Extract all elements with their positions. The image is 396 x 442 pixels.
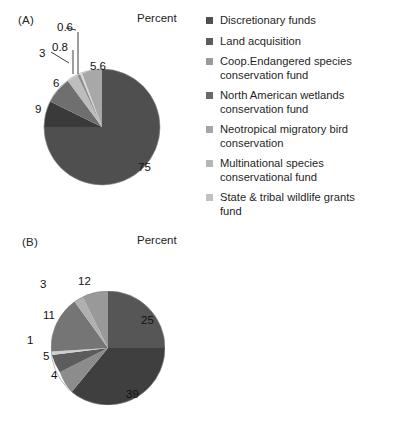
legend-a: Discretionary funds Land acquisition Coo… <box>206 14 392 225</box>
pie-a-label-3: 3 <box>39 48 45 60</box>
legend-a-label: Multinational species conservational fun… <box>220 157 324 184</box>
pie-a-label-0-8: 0.8 <box>52 42 68 54</box>
panel-b-percent-header: Percent <box>137 234 177 246</box>
legend-swatch-icon <box>206 58 213 65</box>
legend-a-item-land-acquisition[interactable]: Land acquisition <box>206 35 392 49</box>
legend-a-item-coop-endangered-species[interactable]: Coop.Endangered species conservation fun… <box>206 55 392 82</box>
legend-a-item-state-tribal-wildlife-grants[interactable]: State & tribal wildlife grants fund <box>206 191 392 218</box>
pie-a-label-0-6: 0.6 <box>57 22 73 34</box>
pie-b-label-3: 3 <box>40 279 46 291</box>
legend-swatch-icon <box>206 38 213 45</box>
panel-a: (A) Percent 0.6 0.8 <box>0 0 396 221</box>
pie-b-label-1: 1 <box>27 335 33 347</box>
pie-b-label-11: 11 <box>43 310 55 322</box>
panel-a-percent-header: Percent <box>137 12 177 24</box>
legend-a-item-north-american-wetlands[interactable]: North American wetlands conservation fun… <box>206 89 392 116</box>
legend-swatch-icon <box>206 17 213 24</box>
legend-a-label: Neotropical migratory bird conservation <box>220 123 348 150</box>
panel-b: (B) Percent 25 39 4 5 1 11 3 12 <box>0 221 396 442</box>
legend-a-item-neotropical-migratory-bird[interactable]: Neotropical migratory bird conservation <box>206 123 392 150</box>
legend-a-label: Coop.Endangered species conservation fun… <box>220 55 352 82</box>
legend-a-label: State & tribal wildlife grants fund <box>220 191 355 218</box>
pie-a-label-5-6: 5.6 <box>90 61 106 73</box>
pie-a-label-9: 9 <box>35 104 41 116</box>
pie-b-label-5: 5 <box>43 351 49 363</box>
panel-a-letter: (A) <box>18 14 34 26</box>
pie-b-label-4: 4 <box>51 370 57 382</box>
legend-swatch-icon <box>206 160 213 167</box>
legend-a-label: Land acquisition <box>220 35 301 49</box>
pie-a-label-6: 6 <box>53 78 59 90</box>
legend-swatch-icon <box>206 92 213 99</box>
pie-b-label-39: 39 <box>126 389 139 401</box>
pie-b-label-25: 25 <box>141 315 154 327</box>
legend-a-item-multinational-species[interactable]: Multinational species conservational fun… <box>206 157 392 184</box>
legend-a-label: North American wetlands conservation fun… <box>220 89 344 116</box>
pie-b-slice-ecological-services <box>108 291 165 348</box>
pie-chart-b <box>51 291 165 405</box>
pie-b-svg <box>51 291 165 405</box>
legend-swatch-icon <box>206 126 213 133</box>
legend-swatch-icon <box>206 194 213 201</box>
panel-b-letter: (B) <box>22 236 38 248</box>
legend-a-item-discretionary-funds[interactable]: Discretionary funds <box>206 14 392 28</box>
legend-a-label: Discretionary funds <box>220 14 316 28</box>
pie-a-label-75: 75 <box>138 162 151 174</box>
pie-b-label-12: 12 <box>78 276 91 288</box>
